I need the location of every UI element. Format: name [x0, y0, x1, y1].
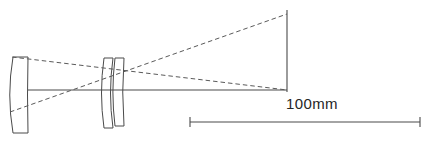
scale-bar	[190, 117, 420, 127]
upper-marginal-ray	[12, 57, 287, 90]
lower-marginal-ray	[10, 14, 287, 112]
front-biconvex-lens	[10, 57, 28, 133]
scale-bar-label: 100mm	[286, 95, 338, 112]
rear-meniscus-element-2	[113, 58, 124, 126]
optical-diagram-canvas	[0, 0, 427, 141]
optical-ray-diagram: 100mm	[0, 0, 427, 141]
